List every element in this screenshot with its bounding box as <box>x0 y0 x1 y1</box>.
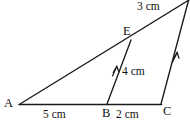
measurement-label-BE: 4 cm <box>122 66 145 78</box>
measurement-label-BC: 2 cm <box>116 109 139 121</box>
vertex-label-C: C <box>163 105 171 118</box>
geometry-canvas <box>0 0 190 127</box>
vertex-label-E: E <box>123 25 131 38</box>
measurement-label-ED: 3 cm <box>137 1 160 13</box>
vertex-label-A: A <box>4 97 13 110</box>
geometry-figure: A B C E 5 cm 2 cm 4 cm 3 cm <box>0 0 190 127</box>
segment-AD <box>20 0 189 104</box>
measurement-label-AB: 5 cm <box>43 109 66 121</box>
segment-CD <box>161 1 189 105</box>
vertex-label-B: B <box>102 107 110 120</box>
